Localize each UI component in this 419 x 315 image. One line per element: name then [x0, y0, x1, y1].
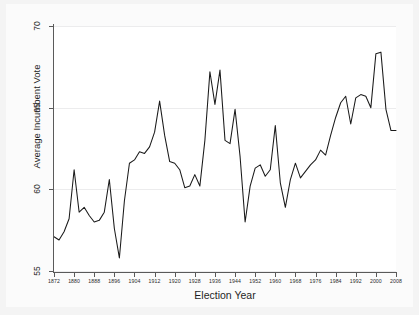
x-axis-tick [215, 273, 216, 277]
x-axis-tick [114, 273, 115, 277]
x-axis-tick [134, 273, 135, 277]
y-axis-tick-label: 70 [28, 21, 46, 31]
chart-figure: Average Incumbent Vote 55606570 18721880… [0, 0, 419, 315]
x-axis-tick [356, 273, 357, 277]
x-axis-title: Election Year [54, 289, 396, 301]
y-axis-tick [49, 189, 54, 190]
x-axis-tick [94, 273, 95, 277]
x-axis-tick [54, 273, 55, 277]
x-axis-line [53, 272, 397, 273]
x-axis-tick [175, 273, 176, 277]
series-line-incumbent-vote [54, 26, 396, 271]
y-axis-tick-label: 65 [28, 103, 46, 113]
x-axis-tick [336, 273, 337, 277]
plot-area [54, 26, 396, 271]
x-axis-tick [255, 273, 256, 277]
x-axis-tick [74, 273, 75, 277]
x-axis-tick [316, 273, 317, 277]
x-axis-tick [376, 273, 377, 277]
y-axis-tick [49, 271, 54, 272]
x-axis-tick [275, 273, 276, 277]
y-axis-tick-label: 60 [28, 184, 46, 194]
y-axis-tick [49, 108, 54, 109]
x-axis-tick [235, 273, 236, 277]
x-axis-tick [195, 273, 196, 277]
x-axis-tick-label: 2008 [381, 278, 411, 284]
series-path [54, 52, 396, 258]
y-axis-tick-label: 55 [28, 266, 46, 276]
x-axis-tick [396, 273, 397, 277]
x-axis-tick [155, 273, 156, 277]
y-axis-line [53, 24, 54, 273]
y-axis-tick [49, 26, 54, 27]
x-axis-tick [295, 273, 296, 277]
chart-paper: Average Incumbent Vote 55606570 18721880… [6, 4, 413, 307]
